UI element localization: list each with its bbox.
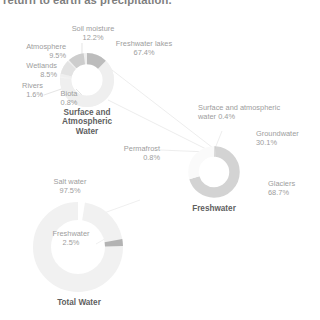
label-wetlands-value: 8.5% (2, 71, 57, 80)
label-glaciers-name: Glaciers (268, 179, 295, 188)
chart-title-line1: Surface and (54, 108, 120, 117)
label-permafrost-name: Permafrost (124, 144, 160, 153)
donut-freshwater (194, 152, 235, 193)
label-soil-moisture-name: Soil moisture (72, 24, 115, 33)
label-freshwater-lakes-value: 67.4% (104, 49, 184, 58)
leader-salt-water (104, 200, 140, 213)
label-biota: Biota 0.8% (50, 90, 88, 107)
label-surface-atmospheric-water: Surface and atmospheric water 0.4% (198, 104, 262, 121)
label-rivers: Rivers 1.6% (0, 82, 43, 99)
label-groundwater-value: 30.1% (256, 139, 318, 148)
label-wetlands: Wetlands 8.5% (2, 62, 57, 79)
chart-title-line2: Atmospheric (54, 117, 120, 126)
label-rivers-name: Rivers (22, 81, 43, 90)
label-biota-name: Biota (61, 89, 78, 98)
label-groundwater-name: Groundwater (256, 129, 299, 138)
infographic-canvas: return to earth as precipitation. (0, 0, 320, 320)
label-salt-water: Salt water 97.5% (38, 178, 102, 195)
label-glaciers-value: 68.7% (268, 189, 318, 198)
label-glaciers: Glaciers 68.7% (268, 180, 318, 197)
chart-title-surface-atmospheric-water: Surface and Atmospheric Water (54, 108, 120, 136)
chart-title-line3: Water (54, 127, 120, 136)
label-permafrost-value: 0.8% (110, 154, 160, 163)
label-atmosphere-value: 9.5% (4, 52, 66, 61)
label-permafrost: Permafrost 0.8% (110, 145, 160, 162)
chart-title-total-water: Total Water (44, 298, 114, 308)
label-atmosphere-name: Atmosphere (26, 42, 66, 51)
label-freshwater-inner-name: Freshwater (53, 229, 90, 238)
label-rivers-value: 1.6% (0, 91, 43, 100)
label-freshwater-lakes: Freshwater lakes 67.4% (104, 40, 184, 57)
label-biota-value: 0.8% (50, 99, 88, 108)
label-salt-water-name: Salt water (54, 177, 87, 186)
label-surface-atmospheric-water-value: water 0.4% (198, 113, 262, 122)
label-salt-water-value: 97.5% (38, 187, 102, 196)
leader-surface-atmos-water (216, 131, 222, 146)
label-freshwater-inner: Freshwater 2.5% (40, 230, 102, 247)
label-freshwater-lakes-name: Freshwater lakes (116, 39, 172, 48)
label-atmosphere: Atmosphere 9.5% (4, 43, 66, 60)
label-wetlands-name: Wetlands (26, 61, 57, 70)
label-freshwater-inner-value: 2.5% (40, 239, 102, 248)
chart-title-freshwater: Freshwater (184, 204, 244, 214)
label-groundwater: Groundwater 30.1% (256, 130, 318, 147)
